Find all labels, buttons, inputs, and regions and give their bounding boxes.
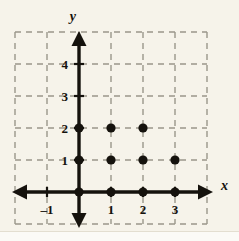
data-point (74, 155, 83, 164)
data-point (74, 187, 83, 196)
x-axis-arrow-right (198, 185, 213, 200)
coordinate-plane-figure: –11231234xy (0, 0, 239, 241)
x-axis-arrow-left (12, 185, 27, 200)
x-axis-tick-label: 2 (140, 203, 147, 216)
data-point (170, 155, 179, 164)
page-bottom-edge (0, 231, 239, 241)
y-axis-tick-label: 2 (62, 122, 69, 135)
y-axis-label: y (70, 10, 76, 24)
y-axis-arrow-down (72, 213, 87, 228)
data-point (138, 155, 147, 164)
data-point (170, 187, 179, 196)
coordinate-plane-svg (0, 0, 239, 241)
data-point (138, 123, 147, 132)
y-axis-tick-label: 3 (62, 90, 69, 103)
data-point (106, 187, 115, 196)
x-axis-label: x (221, 179, 228, 193)
y-axis-tick-label: 1 (62, 154, 69, 167)
x-axis-tick-label: –1 (41, 203, 54, 216)
x-axis-tick-label: 1 (108, 203, 115, 216)
y-axis-tick-label: 4 (62, 58, 69, 71)
data-point (106, 123, 115, 132)
y-axis-arrow-up (72, 31, 87, 46)
data-point (74, 123, 83, 132)
data-point (138, 187, 147, 196)
data-point (106, 155, 115, 164)
x-axis-tick-label: 3 (172, 203, 179, 216)
